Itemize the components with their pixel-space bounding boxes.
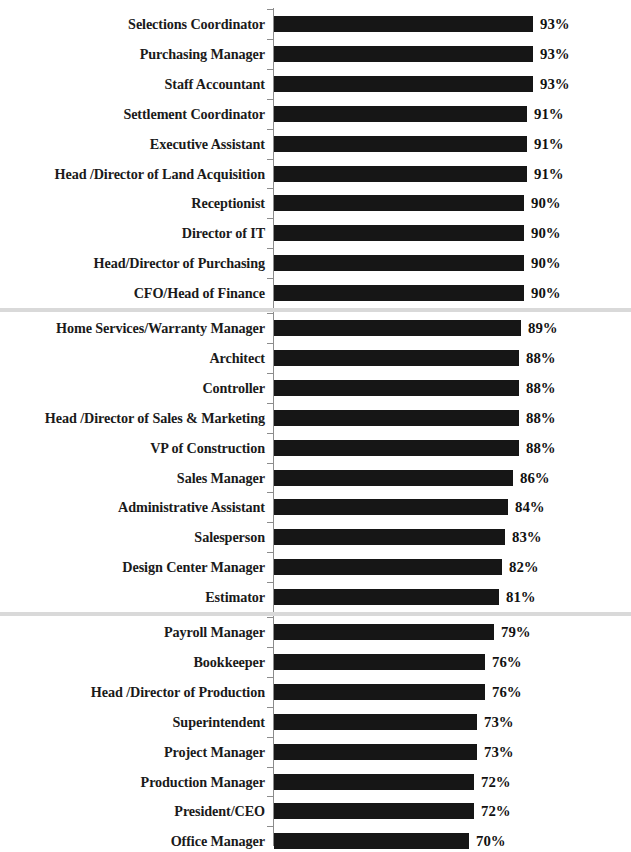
bar-row: Superintendent73% — [0, 707, 631, 737]
bar-row: Home Services/Warranty Manager89% — [0, 313, 631, 343]
bar-row: Controller88% — [0, 373, 631, 403]
axis-tick — [267, 826, 274, 827]
category-label: Office Manager — [171, 826, 265, 852]
bar — [274, 774, 474, 790]
bar-value-label: 82% — [509, 552, 539, 582]
bar-row: CFO/Head of Finance90% — [0, 278, 631, 308]
bar-value-label: 88% — [526, 403, 556, 433]
bar-value-label: 72% — [481, 767, 511, 797]
bar-value-label: 84% — [515, 492, 545, 522]
bar-value-label: 86% — [520, 463, 550, 493]
bar — [274, 16, 533, 32]
bar-value-label: 88% — [526, 433, 556, 463]
category-label: Production Manager — [141, 767, 265, 797]
bar — [274, 529, 505, 545]
axis-tick — [267, 617, 274, 618]
axis-tick — [267, 433, 274, 434]
bar-row: Office Manager70% — [0, 826, 631, 852]
bar — [274, 440, 519, 456]
bar-value-label: 93% — [540, 69, 570, 99]
category-label: Head /Director of Land Acquisition — [55, 159, 265, 189]
category-label: Salesperson — [194, 522, 265, 552]
category-label: Architect — [209, 343, 265, 373]
bar-value-label: 72% — [481, 796, 511, 826]
category-label: Receptionist — [191, 188, 265, 218]
bar-row: Project Manager73% — [0, 737, 631, 767]
bar-row: Architect88% — [0, 343, 631, 373]
group-separator — [0, 308, 631, 312]
bar-row: Head /Director of Land Acquisition91% — [0, 159, 631, 189]
category-label: Head /Director of Sales & Marketing — [45, 403, 265, 433]
bar-row: Salesperson83% — [0, 522, 631, 552]
bar-row: Receptionist90% — [0, 188, 631, 218]
bar-value-label: 91% — [534, 129, 564, 159]
bar-value-label: 91% — [534, 99, 564, 129]
category-label: Sales Manager — [177, 463, 265, 493]
category-label: Payroll Manager — [164, 617, 265, 647]
bar-value-label: 90% — [531, 278, 561, 308]
category-label: Purchasing Manager — [140, 39, 265, 69]
bar — [274, 559, 502, 575]
axis-tick — [267, 343, 274, 344]
axis-tick — [267, 403, 274, 404]
bar — [274, 380, 519, 396]
bar — [274, 106, 527, 122]
category-label: Superintendent — [173, 707, 265, 737]
axis-tick — [267, 582, 274, 583]
axis-tick — [267, 313, 274, 314]
category-label: Home Services/Warranty Manager — [56, 313, 265, 343]
bar-value-label: 91% — [534, 159, 564, 189]
category-label: Head/Director of Purchasing — [94, 248, 265, 278]
bar-value-label: 89% — [528, 313, 558, 343]
bar-row: Production Manager72% — [0, 767, 631, 797]
plot-area: Selections Coordinator93%Purchasing Mana… — [0, 0, 631, 852]
bar — [274, 499, 508, 515]
category-label: Director of IT — [182, 218, 265, 248]
bar-value-label: 93% — [540, 39, 570, 69]
bar-row: President/CEO72% — [0, 796, 631, 826]
bar — [274, 46, 533, 62]
bar — [274, 195, 524, 211]
bar-value-label: 76% — [492, 677, 522, 707]
bar-value-label: 93% — [540, 9, 570, 39]
axis-tick — [267, 129, 274, 130]
bar-chart: Selections Coordinator93%Purchasing Mana… — [0, 0, 631, 852]
axis-tick — [267, 159, 274, 160]
bar-row: Bookkeeper76% — [0, 647, 631, 677]
bar-value-label: 90% — [531, 218, 561, 248]
axis-tick — [267, 707, 274, 708]
category-label: Project Manager — [164, 737, 265, 767]
axis-tick — [267, 522, 274, 523]
bar-row: Settlement Coordinator91% — [0, 99, 631, 129]
axis-tick — [267, 69, 274, 70]
axis-tick — [267, 463, 274, 464]
bar-value-label: 88% — [526, 343, 556, 373]
bar — [274, 285, 524, 301]
axis-tick — [267, 9, 274, 10]
axis-tick — [267, 647, 274, 648]
bar — [274, 76, 533, 92]
bar — [274, 714, 477, 730]
axis-tick — [267, 552, 274, 553]
category-label: Administrative Assistant — [118, 492, 265, 522]
bar-row: Purchasing Manager93% — [0, 39, 631, 69]
axis-tick — [267, 373, 274, 374]
bar-row: Head/Director of Purchasing90% — [0, 248, 631, 278]
axis-tick — [267, 278, 274, 279]
category-label: Controller — [202, 373, 265, 403]
category-label: VP of Construction — [150, 433, 265, 463]
bar-row: Selections Coordinator93% — [0, 9, 631, 39]
group-separator — [0, 612, 631, 616]
bar — [274, 350, 519, 366]
bar — [274, 255, 524, 271]
axis-tick — [267, 767, 274, 768]
bar-row: Head /Director of Production76% — [0, 677, 631, 707]
axis-tick — [267, 737, 274, 738]
bar — [274, 744, 477, 760]
category-label: Bookkeeper — [193, 647, 265, 677]
bar-row: Estimator81% — [0, 582, 631, 612]
axis-tick — [267, 492, 274, 493]
bar-row: Sales Manager86% — [0, 463, 631, 493]
bar — [274, 589, 499, 605]
category-label: CFO/Head of Finance — [134, 278, 265, 308]
